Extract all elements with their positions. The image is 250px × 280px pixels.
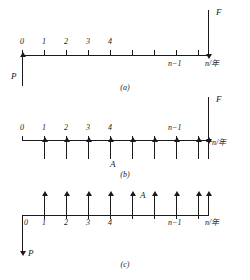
arrow-P-a <box>22 56 23 86</box>
tick-label-2: 2 <box>64 219 68 227</box>
annuity-arrow <box>154 195 155 215</box>
tick-label-2: 2 <box>64 38 68 46</box>
tick-label-2: 2 <box>64 124 68 132</box>
tick-label-3: 3 <box>86 219 90 227</box>
arrow-P-c <box>22 216 23 252</box>
axis-tick <box>176 50 177 55</box>
axis-tick <box>132 215 133 219</box>
axis-unit-label: n/年 <box>205 60 219 68</box>
axis-c <box>22 215 209 216</box>
tick-label-4: 4 <box>108 219 112 227</box>
tick-label-4: 4 <box>108 38 112 46</box>
tick-label-3: 3 <box>86 124 90 132</box>
label-P-c: P <box>28 249 34 258</box>
annuity-arrow <box>208 195 209 215</box>
tick-label-0: 0 <box>20 38 24 46</box>
label-A-b: A <box>110 160 116 169</box>
axis-tick <box>154 215 155 219</box>
tick-label-n-minus-1: n−1 <box>168 124 181 132</box>
tick-label-1: 1 <box>42 124 46 132</box>
annuity-arrow <box>198 195 199 215</box>
arrow-F-b <box>208 97 209 140</box>
label-P-a: P <box>11 72 17 81</box>
axis-a <box>22 55 209 56</box>
axis-unit-label: n/年 <box>212 139 226 147</box>
axis-tick <box>198 215 199 219</box>
annuity-arrow <box>88 195 89 215</box>
caption-c: (c) <box>105 261 145 269</box>
caption-b: (b) <box>105 171 145 179</box>
axis-tick <box>66 50 67 55</box>
tick-label-0: 0 <box>24 219 28 227</box>
tick-label-0: 0 <box>20 124 24 132</box>
tick-label-4: 4 <box>108 124 112 132</box>
annuity-arrow <box>132 141 133 159</box>
panel-a: F 0 1 2 3 4 n−1 n/年 P (a) <box>0 0 250 95</box>
axis-b <box>22 140 209 141</box>
tick-label-n-minus-1: n−1 <box>168 60 181 68</box>
annuity-arrow <box>154 141 155 159</box>
caption-a: (a) <box>105 84 145 92</box>
label-F-b: F <box>216 95 222 104</box>
annuity-arrow <box>132 195 133 215</box>
annuity-arrow <box>44 141 45 159</box>
tick-label-n-minus-1: n−1 <box>168 219 181 227</box>
annuity-arrow <box>208 141 209 159</box>
cash-flow-figure: F 0 1 2 3 4 n−1 n/年 P (a) F <box>0 0 250 280</box>
annuity-arrow <box>110 141 111 159</box>
panel-b: F 0 1 2 3 4 n−1 n/年 A (b) <box>0 95 250 180</box>
panel-c: A 0 1 2 3 4 n−1 n/年 P (c) <box>0 185 250 280</box>
axis-tick <box>88 50 89 55</box>
axis-tick <box>198 50 199 55</box>
axis-tick <box>22 136 23 140</box>
annuity-arrow <box>66 195 67 215</box>
arrow-F-a <box>208 10 209 55</box>
annuity-arrow <box>176 141 177 159</box>
axis-tick <box>132 50 133 55</box>
tick-label-3: 3 <box>86 38 90 46</box>
axis-tick <box>110 50 111 55</box>
axis-tick <box>154 50 155 55</box>
annuity-arrow <box>110 195 111 215</box>
axis-unit-label: n/年 <box>205 219 219 227</box>
label-A-c: A <box>140 191 146 200</box>
tick-label-1: 1 <box>42 219 46 227</box>
label-F-a: F <box>216 8 222 17</box>
annuity-arrow <box>88 141 89 159</box>
axis-tick <box>44 50 45 55</box>
annuity-arrow <box>44 195 45 215</box>
annuity-arrow <box>198 141 199 159</box>
annuity-arrow <box>176 195 177 215</box>
tick-label-1: 1 <box>42 38 46 46</box>
annuity-arrow <box>66 141 67 159</box>
